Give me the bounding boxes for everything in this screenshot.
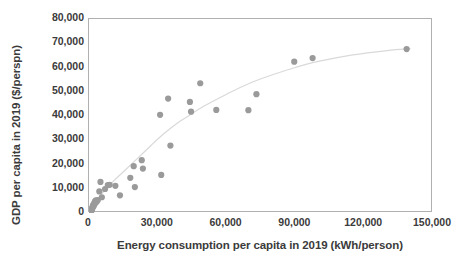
data-point: [310, 55, 316, 61]
data-point: [99, 194, 105, 200]
data-point: [132, 184, 138, 190]
data-point: [291, 59, 297, 65]
plot-canvas: [89, 19, 433, 213]
y-tick-label: 30,000: [36, 133, 84, 144]
y-tick-label: 40,000: [36, 109, 84, 120]
data-point: [253, 91, 259, 97]
plot-area: [88, 18, 432, 212]
y-tick-label: 0: [36, 206, 84, 217]
data-points: [89, 46, 410, 213]
data-point: [96, 188, 102, 194]
data-point: [139, 157, 145, 163]
data-point: [213, 107, 219, 113]
x-axis-title: Energy consumption per capita in 2019 (k…: [88, 239, 432, 251]
data-point: [157, 112, 163, 118]
x-tick-label: 120,000: [328, 217, 398, 228]
data-point: [197, 80, 203, 86]
x-axis-tick-labels: 030,00060,00090,000120,000150,000: [0, 217, 455, 231]
data-point: [167, 142, 173, 148]
y-tick-label: 20,000: [36, 158, 84, 169]
data-point: [97, 179, 103, 185]
y-tick-label: 80,000: [36, 12, 84, 23]
data-point: [117, 192, 123, 198]
data-point: [131, 163, 137, 169]
data-point: [127, 175, 133, 181]
data-point: [404, 46, 410, 52]
y-tick-label: 70,000: [36, 36, 84, 47]
data-point: [187, 99, 193, 105]
y-axis-title: GDP per capita in 2019 ($/perspn): [3, 26, 29, 244]
x-tick-label: 90,000: [259, 217, 329, 228]
data-point: [107, 182, 113, 188]
data-point: [188, 109, 194, 115]
trendline: [92, 49, 410, 209]
data-point: [158, 172, 164, 178]
y-tick-label: 10,000: [36, 182, 84, 193]
data-point: [165, 95, 171, 101]
x-tick-label: 0: [53, 217, 123, 228]
y-tick-label: 60,000: [36, 61, 84, 72]
scatter-chart-figure: GDP per capita in 2019 ($/perspn) 010,00…: [0, 0, 455, 264]
y-tick-label: 50,000: [36, 85, 84, 96]
trendline-path: [92, 49, 410, 209]
x-tick-label: 30,000: [122, 217, 192, 228]
x-tick-label: 60,000: [191, 217, 261, 228]
data-point: [140, 166, 146, 172]
data-point: [112, 183, 118, 189]
data-point: [245, 107, 251, 113]
x-tick-label: 150,000: [397, 217, 455, 228]
